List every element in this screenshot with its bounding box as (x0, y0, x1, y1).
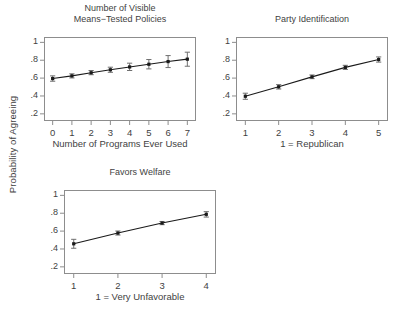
y-tick-label: 1 (30, 189, 58, 199)
panel-favors-welfare: Favors Welfare 1 = Very Unfavorable .2.4… (0, 0, 398, 319)
x-tick-label: 3 (150, 280, 174, 291)
x-tick-label: 1 (62, 280, 86, 291)
y-tick-label: .2 (30, 261, 58, 271)
x-tick-label: 4 (194, 280, 218, 291)
y-tick-label: .4 (30, 243, 58, 253)
y-tick-label: .8 (30, 207, 58, 217)
y-tick-label: .6 (30, 225, 58, 235)
figure-root: Probability of Agreeing Number of Visibl… (0, 0, 398, 319)
plot-svg (0, 0, 398, 319)
x-tick-label: 2 (106, 280, 130, 291)
x-axis-label: 1 = Very Unfavorable (24, 291, 256, 302)
